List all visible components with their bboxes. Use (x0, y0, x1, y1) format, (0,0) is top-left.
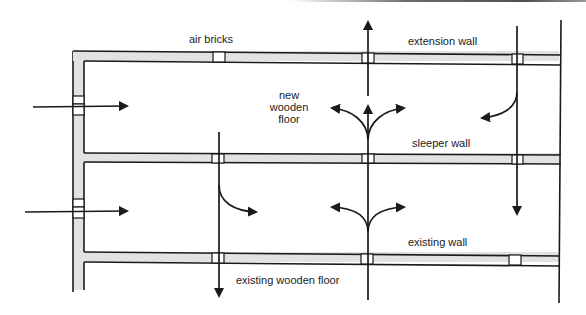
label-air-bricks: air bricks (189, 33, 233, 45)
side-air-brick-upper (73, 96, 84, 104)
side-wall (73, 51, 84, 292)
label-new-wooden-floor-line2: wooden (270, 101, 309, 113)
label-existing-wall: existing wall (408, 236, 467, 248)
air-brick (213, 52, 225, 62)
right-boundary-line (559, 20, 561, 303)
air-brick (361, 254, 373, 264)
extension-wall (73, 51, 561, 65)
curved-arrow-right (482, 92, 517, 118)
existing-wall (84, 252, 559, 266)
label-new-wooden-floor-line3: floor (278, 113, 299, 125)
label-new-wooden-floor-line1: new (279, 89, 299, 101)
air-brick (212, 253, 224, 263)
ventilation-diagram (0, 0, 586, 315)
side-air-brick-lower (73, 199, 84, 207)
air-brick (509, 255, 521, 265)
sleeper-wall (84, 153, 561, 164)
inlet-arrow-lower (25, 211, 127, 212)
label-sleeper-wall: sleeper wall (412, 137, 470, 149)
curved-arrow-left (219, 185, 256, 212)
label-extension-wall: extension wall (408, 35, 477, 47)
three-way-split-arrow (332, 106, 404, 140)
inlet-arrow-upper (33, 106, 127, 107)
air-brick (212, 154, 224, 163)
label-existing-wooden-floor: existing wooden floor (236, 274, 339, 286)
